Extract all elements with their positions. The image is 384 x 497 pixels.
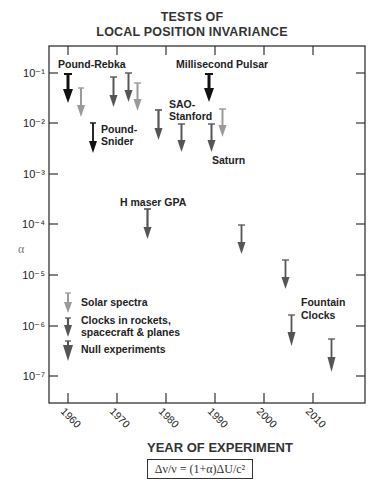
legend-label-solar: Solar spectra bbox=[81, 296, 148, 308]
arrow-null-2004 bbox=[282, 260, 290, 289]
x-tick-label: 2000 bbox=[255, 405, 280, 430]
x-tick-labels: 1960 1970 1980 1990 2000 2010 bbox=[59, 405, 329, 430]
legend: Solar spectra Clocks in rockets, spacecr… bbox=[81, 296, 180, 355]
label-sao-2: Stanford bbox=[169, 110, 212, 122]
x-tick-label: 2010 bbox=[304, 405, 329, 430]
y-tick-label: 10⁻⁵ bbox=[22, 269, 45, 281]
label-fountain-2: Clocks bbox=[301, 309, 336, 321]
y-tick-labels: 10⁻¹ 10⁻² 10⁻³ 10⁻⁴ 10⁻⁵ 10⁻⁶ 10⁻⁷ bbox=[22, 67, 45, 382]
legend-arrow-solar bbox=[64, 293, 72, 313]
y-tick-label: 10⁻⁴ bbox=[22, 218, 45, 230]
x-ticks-top bbox=[68, 46, 313, 55]
x-axis-label: YEAR OF EXPERIMENT bbox=[70, 440, 370, 455]
arrow-solar-1962 bbox=[77, 88, 85, 117]
y-axis-label: α bbox=[18, 242, 25, 256]
y-tick-label: 10⁻⁷ bbox=[23, 370, 45, 382]
arrow-millisecond-pulsar bbox=[204, 74, 214, 102]
label-h-maser-gpa: H maser GPA bbox=[120, 196, 187, 208]
y-ticks-right bbox=[356, 73, 365, 376]
arrow-clock-1978 bbox=[155, 110, 163, 140]
label-pound-snider-2: Snider bbox=[101, 135, 134, 147]
x-tick-label: 1980 bbox=[157, 405, 182, 430]
arrow-null-2013 bbox=[328, 339, 336, 372]
arrow-solar-1989 bbox=[219, 109, 227, 137]
y-tick-label: 10⁻⁶ bbox=[22, 320, 45, 332]
label-millisecond-pulsar: Millisecond Pulsar bbox=[176, 58, 268, 70]
arrow-clock-1969 bbox=[110, 77, 118, 107]
x-tick-label: 1990 bbox=[206, 405, 231, 430]
arrow-pound-snider bbox=[89, 123, 97, 153]
legend-label-clocks-2: spacecraft & planes bbox=[81, 326, 180, 338]
arrow-clock-1983 bbox=[178, 124, 186, 152]
label-pound-snider-1: Pound- bbox=[101, 123, 138, 135]
arrow-saturn bbox=[208, 124, 216, 152]
y-tick-label: 10⁻² bbox=[23, 117, 45, 129]
legend-label-clocks-1: Clocks in rockets, bbox=[81, 314, 171, 326]
y-ticks-left bbox=[49, 73, 58, 376]
y-tick-label: 10⁻¹ bbox=[23, 67, 45, 79]
label-fountain-1: Fountain bbox=[301, 296, 345, 308]
arrow-null-1995 bbox=[238, 225, 246, 254]
label-pound-rebka: Pound-Rebka bbox=[58, 58, 126, 70]
arrow-h-maser-gpa bbox=[144, 209, 152, 239]
plot-area: 10⁻¹ 10⁻² 10⁻³ 10⁻⁴ 10⁻⁵ 10⁻⁶ 10⁻⁷ α 196… bbox=[0, 0, 384, 497]
legend-arrow-clocks bbox=[64, 318, 72, 337]
arrow-solar-1971 bbox=[134, 83, 142, 111]
x-tick-label: 1960 bbox=[59, 405, 84, 430]
legend-label-null: Null experiments bbox=[81, 343, 166, 355]
x-tick-label: 1970 bbox=[108, 405, 133, 430]
legend-arrow-null bbox=[63, 341, 73, 361]
label-sao-1: SAO- bbox=[169, 98, 196, 110]
arrow-clock-1971 bbox=[125, 73, 133, 102]
arrow-pound-rebka bbox=[63, 74, 73, 103]
arrow-null-2005 bbox=[288, 315, 296, 346]
label-saturn: Saturn bbox=[212, 154, 245, 166]
x-ticks-bottom bbox=[68, 393, 313, 403]
y-tick-label: 10⁻³ bbox=[23, 168, 45, 180]
formula-box: Δν/ν = (1+α)ΔU/c² bbox=[147, 459, 253, 479]
